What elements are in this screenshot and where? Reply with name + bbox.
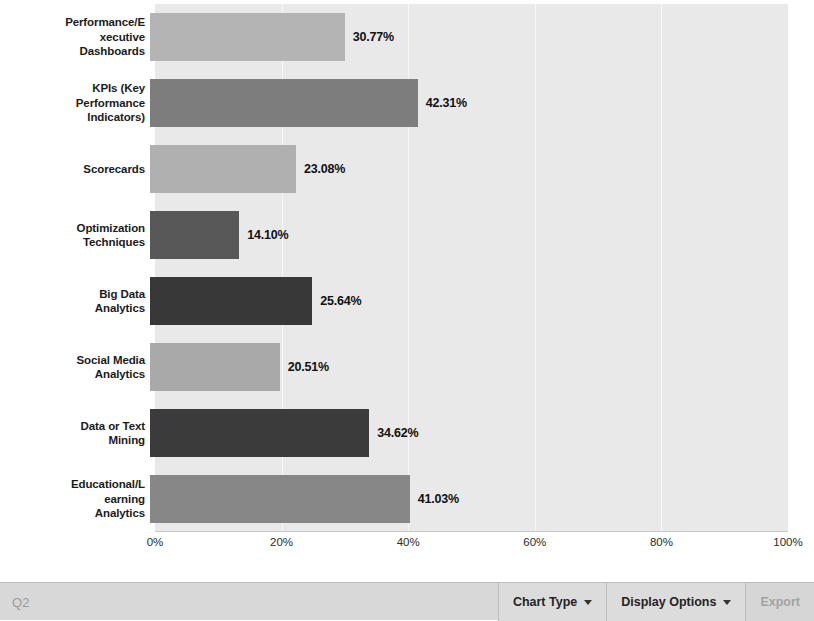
x-tick-label: 0%	[147, 536, 164, 548]
bar-value-label: 42.31%	[418, 96, 467, 110]
bar-row: Scorecards23.08%	[0, 136, 814, 202]
bar-track: 25.64%	[150, 268, 814, 334]
x-tick-label: 40%	[397, 536, 420, 548]
bar[interactable]	[150, 13, 345, 61]
display-options-label: Display Options	[621, 595, 716, 609]
chart-type-button[interactable]: Chart Type	[498, 583, 606, 621]
category-label-line: Analytics	[0, 301, 145, 316]
bar-track: 30.77%	[150, 4, 814, 70]
category-label-line: Scorecards	[0, 162, 145, 177]
category-label-line: Indicators)	[0, 110, 145, 125]
category-label-line: Performance	[0, 96, 145, 111]
bar-row: Educational/LearningAnalytics41.03%	[0, 466, 814, 532]
bar[interactable]	[150, 475, 410, 523]
category-label-line: KPIs (Key	[0, 81, 145, 96]
bar[interactable]	[150, 79, 418, 127]
bar-value-label: 14.10%	[239, 228, 288, 242]
category-label: Performance/ExecutiveDashboards	[0, 15, 150, 59]
category-label-line: Big Data	[0, 287, 145, 302]
bar[interactable]	[150, 343, 280, 391]
category-label-line: Optimization	[0, 221, 145, 236]
x-axis-ticks: 0%20%40%60%80%100%	[155, 536, 788, 558]
toolbar-buttons: Chart Type Display Options Export	[498, 583, 814, 621]
bar-row: Big DataAnalytics25.64%	[0, 268, 814, 334]
category-label: Educational/LearningAnalytics	[0, 477, 150, 521]
bar-value-label: 23.08%	[296, 162, 345, 176]
category-label: KPIs (KeyPerformanceIndicators)	[0, 81, 150, 125]
bar-track: 23.08%	[150, 136, 814, 202]
bar-row: Social MediaAnalytics20.51%	[0, 334, 814, 400]
category-label-line: Analytics	[0, 506, 145, 521]
category-label-line: xecutive	[0, 30, 145, 45]
bottom-toolbar: Q2 Chart Type Display Options Export	[0, 582, 814, 620]
category-label-line: Performance/E	[0, 15, 145, 30]
category-label: Data or TextMining	[0, 419, 150, 448]
category-label: Big DataAnalytics	[0, 287, 150, 316]
report-title: Q2	[12, 594, 30, 609]
bar-row: KPIs (KeyPerformanceIndicators)42.31%	[0, 70, 814, 136]
bar-row: Performance/ExecutiveDashboards30.77%	[0, 4, 814, 70]
category-label: Scorecards	[0, 162, 150, 177]
bar-track: 14.10%	[150, 202, 814, 268]
x-tick-label: 80%	[650, 536, 673, 548]
category-label-line: Techniques	[0, 235, 145, 250]
category-label-line: Data or Text	[0, 419, 145, 434]
chart-type-label: Chart Type	[513, 595, 577, 609]
category-label: Social MediaAnalytics	[0, 353, 150, 382]
category-label-line: earning	[0, 492, 145, 507]
bar-row: OptimizationTechniques14.10%	[0, 202, 814, 268]
bar[interactable]	[150, 145, 296, 193]
chevron-down-icon	[723, 600, 731, 605]
bar-row: Data or TextMining34.62%	[0, 400, 814, 466]
bar-value-label: 20.51%	[280, 360, 329, 374]
bar-value-label: 30.77%	[345, 30, 394, 44]
bar-track: 42.31%	[150, 70, 814, 136]
bar-value-label: 25.64%	[312, 294, 361, 308]
bar[interactable]	[150, 409, 369, 457]
category-label: OptimizationTechniques	[0, 221, 150, 250]
bar-rows: Performance/ExecutiveDashboards30.77%KPI…	[0, 4, 814, 532]
display-options-button[interactable]: Display Options	[606, 583, 745, 621]
category-label-line: Social Media	[0, 353, 145, 368]
x-tick-label: 60%	[523, 536, 546, 548]
bar[interactable]	[150, 277, 312, 325]
category-label-line: Mining	[0, 433, 145, 448]
x-tick-label: 100%	[773, 536, 802, 548]
bar-track: 41.03%	[150, 466, 814, 532]
export-button[interactable]: Export	[745, 583, 814, 621]
bar[interactable]	[150, 211, 239, 259]
chevron-down-icon	[584, 600, 592, 605]
category-label-line: Analytics	[0, 367, 145, 382]
category-label-line: Educational/L	[0, 477, 145, 492]
export-label: Export	[760, 595, 800, 609]
bar-chart: Performance/ExecutiveDashboards30.77%KPI…	[0, 0, 814, 582]
bar-track: 34.62%	[150, 400, 814, 466]
bar-track: 20.51%	[150, 334, 814, 400]
category-label-line: Dashboards	[0, 44, 145, 59]
bar-value-label: 34.62%	[369, 426, 418, 440]
x-tick-label: 20%	[270, 536, 293, 548]
bar-value-label: 41.03%	[410, 492, 459, 506]
